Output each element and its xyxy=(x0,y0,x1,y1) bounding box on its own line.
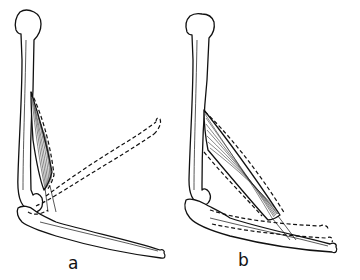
panel-a-drawing xyxy=(15,10,165,258)
forearm-a xyxy=(17,206,165,258)
humerus-b xyxy=(186,14,214,205)
panel-b-drawing xyxy=(185,14,337,253)
arm-drawings xyxy=(0,0,360,280)
panel-label-a: a xyxy=(68,255,78,272)
muscle-b xyxy=(204,110,280,220)
anatomical-figure: a b xyxy=(0,0,360,280)
panel-label-b: b xyxy=(238,252,249,269)
